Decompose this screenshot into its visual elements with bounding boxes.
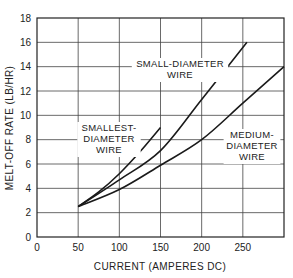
x-tick-label: 200 (193, 242, 210, 253)
series-label-line: WIRE (167, 69, 193, 80)
series-label-line: DIAMETER (83, 133, 135, 144)
y-tick-label: 0 (25, 232, 31, 243)
y-tick-label: 4 (25, 183, 31, 194)
series-label-line: SMALL-DIAMETER (136, 58, 224, 69)
x-axis-title: CURRENT (AMPERES DC) (94, 261, 226, 272)
small-diameter-label: SMALL-DIAMETERWIRE (132, 58, 228, 82)
x-tick-label: 100 (111, 242, 128, 253)
x-tick-label: 150 (152, 242, 169, 253)
smallest-diameter-label: SMALLEST-DIAMETERWIRE (77, 122, 140, 157)
series-label-line: WIRE (239, 151, 265, 162)
medium-diameter-label: MEDIUM-DIAMETERWIRE (224, 129, 281, 164)
y-tick-label: 10 (20, 110, 32, 121)
y-tick-label: 18 (20, 13, 32, 24)
x-tick-label: 0 (34, 242, 40, 253)
series-label-line: MEDIUM- (230, 129, 274, 140)
series-labels: SMALLEST-DIAMETERWIRESMALL-DIAMETERWIREM… (77, 58, 280, 164)
x-tick-label: 50 (73, 242, 85, 253)
series-label-line: DIAMETER (226, 140, 278, 151)
series-label-line: SMALLEST- (82, 122, 137, 133)
y-tick-label: 8 (25, 134, 31, 145)
y-tick-label: 2 (25, 207, 31, 218)
y-tick-label: 14 (20, 61, 32, 72)
y-tick-label: 16 (20, 37, 32, 48)
y-axis-title: MELT-OFF RATE (LB/HR) (4, 66, 15, 191)
x-tick-label: 250 (234, 242, 251, 253)
melt-off-rate-chart: 024681012141618 050100150200250 SMALLEST… (0, 0, 293, 278)
y-tick-label: 12 (20, 86, 32, 97)
x-axis-ticks: 050100150200250 (34, 242, 251, 253)
series-label-line: WIRE (96, 144, 122, 155)
y-axis-ticks: 024681012141618 (20, 13, 32, 243)
y-tick-label: 6 (25, 159, 31, 170)
